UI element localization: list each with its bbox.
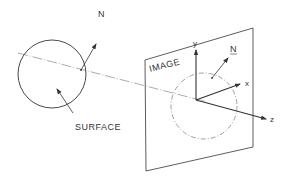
y-axis-label: y [193,39,197,48]
surface-normal-arrow [80,44,96,71]
surface-normal-label: N [98,9,105,19]
z-axis-label: z [270,115,274,124]
projected-circle [171,73,237,139]
z-axis [196,100,266,119]
image-plane-label: IMAGE [148,57,181,74]
image-normal-arrow [211,58,228,79]
surface-image-projection-diagram: N SURFACE IMAGE y x z N [0,0,289,182]
x-axis [196,84,240,100]
surface-sphere [18,40,86,108]
surface-label: SURFACE [75,122,121,132]
surface-pointer-arrow [57,89,73,113]
image-normal-label: N [230,44,237,54]
x-axis-label: x [245,79,249,88]
